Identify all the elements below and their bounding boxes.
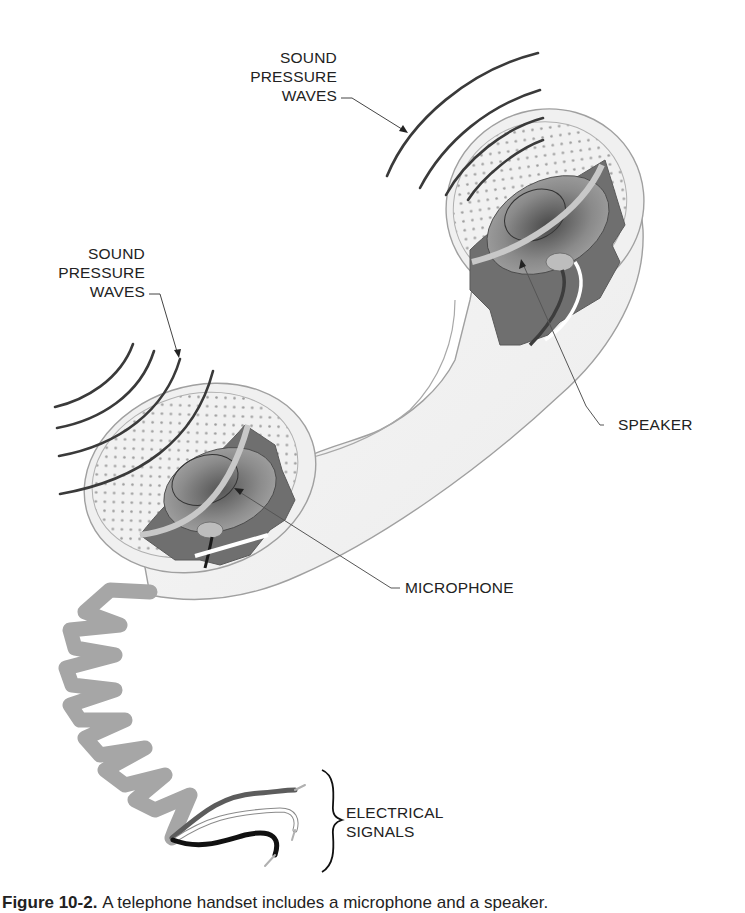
speaker-label-text: SPEAKER bbox=[618, 415, 693, 434]
left-waves-leader bbox=[149, 294, 181, 358]
figure-caption: Figure 10-2. A telephone handset include… bbox=[2, 893, 548, 913]
caption-text: A telephone handset includes a microphon… bbox=[102, 893, 548, 912]
top-waves-label-line2: PRESSURE bbox=[225, 67, 337, 86]
left-waves-label: SOUND PRESSURE WAVES bbox=[30, 244, 145, 301]
earpiece bbox=[412, 74, 678, 345]
figure-number: Figure 10-2. bbox=[2, 893, 97, 912]
electrical-signals-line1: ELECTRICAL bbox=[346, 803, 444, 822]
signals-bracket bbox=[322, 770, 342, 872]
electrical-signals-line2: SIGNALS bbox=[346, 822, 444, 841]
coiled-cord bbox=[66, 590, 190, 838]
speaker-label: SPEAKER bbox=[618, 415, 693, 434]
top-waves-label-line3: WAVES bbox=[225, 86, 337, 105]
top-waves-label-line1: SOUND bbox=[225, 48, 337, 67]
top-waves-leader bbox=[341, 98, 408, 133]
microphone-label-text: MICROPHONE bbox=[405, 578, 514, 597]
top-waves-label: SOUND PRESSURE WAVES bbox=[225, 48, 337, 105]
electrical-signals-label: ELECTRICAL SIGNALS bbox=[346, 803, 444, 841]
microphone-label: MICROPHONE bbox=[405, 578, 514, 597]
left-waves-label-line3: WAVES bbox=[30, 282, 145, 301]
left-waves-label-line2: PRESSURE bbox=[30, 263, 145, 282]
left-waves-label-line1: SOUND bbox=[30, 244, 145, 263]
